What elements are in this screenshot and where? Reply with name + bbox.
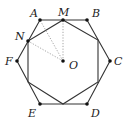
point-n [26,39,30,43]
point-d [85,102,89,106]
label-b: B [91,7,100,20]
point-e [38,102,42,106]
label-a: A [29,7,38,20]
segment-oa [40,20,63,61]
label-d: D [90,107,100,120]
point-c [108,59,112,63]
point-f [15,59,19,63]
label-o: O [69,59,78,72]
geometry-diagram: A M B C D E F N O [0,0,128,125]
label-c: C [114,55,123,68]
point-b [85,18,89,22]
label-f: F [4,55,13,68]
label-e: E [27,107,36,120]
point-o [61,59,65,63]
label-m: M [57,6,70,19]
point-a [38,18,42,22]
label-n: N [14,30,25,43]
